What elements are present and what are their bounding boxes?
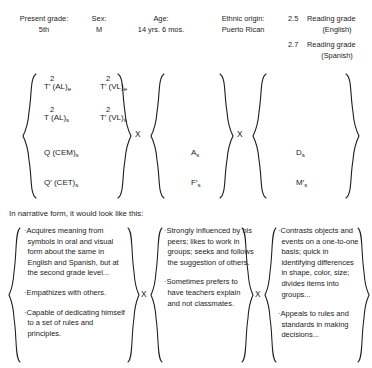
formula-operator-2: X	[237, 129, 243, 139]
right-brace-narrative-3	[356, 226, 370, 364]
reading-grade-spanish: 2.7 Reading grade (Spanish)	[288, 40, 372, 61]
reading-grade-english-label: Reading grade	[307, 14, 371, 25]
narrative-item: ·Appeals to rules and standards in makin…	[278, 309, 360, 341]
narrative-item: ·Empathizes with others.	[24, 288, 128, 299]
narrative-operator-2: X	[255, 289, 261, 299]
reading-grade-english-language: (English)	[307, 25, 367, 36]
formula-operator-1: X	[135, 129, 141, 139]
term-q-cem-s-base: Q (CEM)	[44, 148, 76, 157]
term-t-al-e-sub: e	[68, 85, 71, 92]
narrative-item: ·Acquires meaning from symbols in oral a…	[24, 226, 128, 279]
field-age-value: 14 yrs. 6 mos.	[124, 25, 198, 36]
right-brace-group-3	[344, 72, 360, 200]
field-sex-value: M	[82, 25, 116, 36]
narrative-item: ·Contrasts objects and events on a one-t…	[278, 226, 360, 300]
narrative-expression: ·Acquires meaning from symbols in oral a…	[0, 226, 372, 364]
formula-expression: 2T′ (AL)e 2T′ (VL)e 2T (AL)s 2T′ (VL)s Q…	[0, 72, 372, 200]
term-t-al-e: 2T′ (AL)e	[44, 82, 71, 92]
field-sex: Sex: M	[82, 14, 116, 35]
term-f-s-sub: s	[197, 181, 200, 188]
term-d-s-sub: s	[302, 151, 305, 158]
term-d-s: Ds	[296, 148, 305, 158]
term-t-al-e-base: T′ (AL)	[44, 82, 68, 91]
field-ethnic-origin: Ethnic origin: Puerto Rican	[204, 14, 282, 35]
formula-group-1: 2T′ (AL)e 2T′ (VL)e 2T (AL)s 2T′ (VL)s Q…	[38, 72, 128, 200]
formula-group-3: Ds M′s	[268, 72, 342, 200]
left-brace-group-3	[252, 72, 268, 200]
right-brace-narrative-2	[240, 226, 254, 364]
field-ethnic-origin-label: Ethnic origin:	[204, 14, 282, 25]
right-brace-group-1	[116, 72, 132, 200]
narrative-item: ·Capable of dedicating himself to a set …	[24, 308, 128, 340]
narrative-intro: In narrative form, it would look like th…	[9, 209, 143, 218]
reading-grade-english-score: 2.5	[288, 14, 298, 25]
right-brace-group-2	[218, 72, 234, 200]
term-a-s: As	[191, 148, 199, 158]
term-q-cet-s-base: Q′ (CET)	[44, 178, 75, 187]
reading-grade-spanish-language: (Spanish)	[307, 51, 367, 62]
term-m-s-base: M′	[296, 178, 304, 187]
term-t-al-s: 2T (AL)s	[44, 113, 69, 123]
reading-grade-spanish-score: 2.7	[288, 40, 298, 51]
term-a-s-sub: s	[196, 151, 199, 158]
field-sex-label: Sex:	[82, 14, 116, 25]
term-q-cem-s: Q (CEM)s	[44, 148, 79, 158]
left-brace-narrative-2	[150, 226, 164, 364]
term-m-s-sub: s	[304, 181, 307, 188]
term-t-vl-e-sup: 2	[106, 74, 110, 83]
field-age-label: Age:	[124, 14, 198, 25]
left-brace-narrative-1	[8, 226, 22, 364]
narrative-operator-1: X	[141, 289, 147, 299]
narrative-column-3: ·Contrasts objects and events on a one-t…	[278, 226, 360, 341]
field-present-grade-value: 5th	[8, 25, 80, 36]
narrative-column-1: ·Acquires meaning from symbols in oral a…	[24, 226, 128, 339]
left-brace-narrative-3	[264, 226, 278, 364]
reading-grades: 2.5 Reading grade (English) 2.7 Reading …	[288, 14, 372, 61]
term-t-al-s-base: T (AL)	[44, 113, 66, 122]
term-q-cet-s: Q′ (CET)s	[44, 178, 78, 188]
student-header: Present grade: 5th Sex: M Age: 14 yrs. 6…	[0, 14, 372, 70]
term-q-cem-s-sub: s	[76, 151, 79, 158]
term-m-s: M′s	[296, 178, 307, 188]
left-brace-group-2	[150, 72, 166, 200]
term-f-s: F′s	[191, 178, 200, 188]
term-t-al-s-sup: 2	[50, 105, 54, 114]
reading-grade-english: 2.5 Reading grade (English)	[288, 14, 372, 35]
term-t-al-s-sub: s	[66, 116, 69, 123]
reading-grade-spanish-label: Reading grade	[307, 40, 371, 51]
field-age: Age: 14 yrs. 6 mos.	[124, 14, 198, 35]
term-t-vl-s-sup: 2	[106, 105, 110, 114]
term-q-cet-s-sub: s	[75, 181, 78, 188]
left-brace-group-1	[22, 72, 38, 200]
field-ethnic-origin-value: Puerto Rican	[204, 25, 282, 36]
term-t-al-e-sup: 2	[50, 74, 54, 83]
field-present-grade-label: Present grade:	[8, 14, 80, 25]
right-brace-narrative-1	[126, 226, 140, 364]
field-present-grade: Present grade: 5th	[8, 14, 80, 35]
